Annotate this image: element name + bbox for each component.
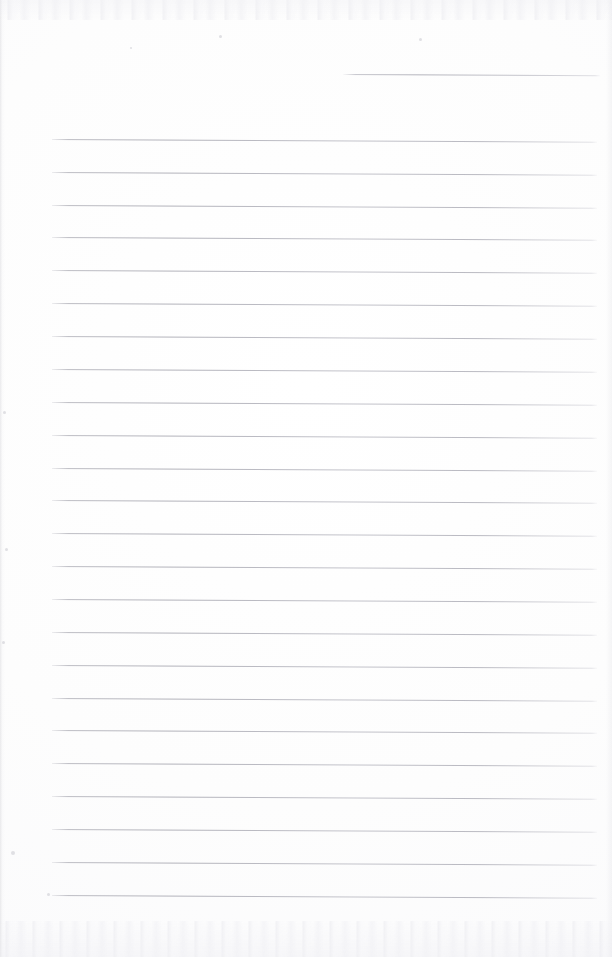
ruled-line (52, 139, 597, 143)
ruled-line (52, 895, 597, 899)
scan-speck (2, 641, 5, 644)
ruled-line (52, 599, 597, 603)
ruled-line (52, 500, 597, 504)
ruled-line (52, 665, 597, 669)
ruled-line (52, 205, 597, 209)
ruled-line (52, 566, 597, 570)
ruled-line (52, 763, 597, 767)
ruled-line (52, 172, 597, 176)
ruled-line (52, 632, 597, 636)
scanned-page (0, 0, 612, 957)
scan-speck (130, 47, 132, 49)
scan-speck (5, 548, 8, 551)
scan-speck (11, 851, 15, 855)
ruled-line (52, 862, 597, 866)
ruled-line (52, 730, 597, 734)
scan-speck (47, 893, 50, 896)
scan-speck (3, 411, 6, 414)
ruled-line (52, 435, 597, 439)
ruled-line (52, 468, 597, 472)
ruled-line (52, 270, 597, 274)
header-rule (343, 74, 600, 76)
ruled-line (52, 336, 597, 340)
ruled-line (52, 303, 597, 307)
ruled-line (52, 796, 597, 800)
ruled-lines-layer (0, 0, 612, 957)
ruled-line (52, 533, 597, 537)
ruled-line (52, 698, 597, 702)
ruled-line (52, 829, 597, 833)
ruled-line (52, 237, 597, 241)
scan-speck (419, 38, 422, 41)
ruled-line (52, 369, 597, 373)
ruled-line (52, 402, 597, 406)
scan-speck (219, 35, 222, 38)
